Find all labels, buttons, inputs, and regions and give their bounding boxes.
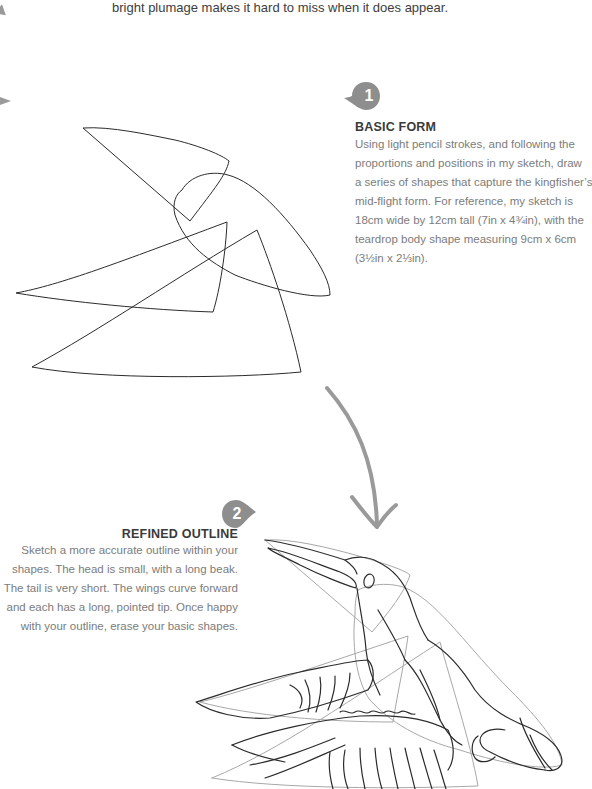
step-1-description: Using light pencil strokes, and followin… [355, 135, 592, 268]
step-2-description: Sketch a more accurate outline within yo… [0, 541, 238, 636]
step-number: 1 [350, 82, 384, 110]
basic-shapes-sketch [16, 128, 330, 377]
step-2-title: REFINED OUTLINE [0, 527, 238, 541]
step-number: 2 [222, 500, 254, 528]
curved-arrow-down [327, 388, 396, 527]
kingfisher-refined-outline [196, 540, 562, 789]
step-2-badge: 2 [222, 500, 252, 528]
step-1-badge: 1 [350, 82, 380, 110]
step-1-title: BASIC FORM [355, 120, 436, 134]
